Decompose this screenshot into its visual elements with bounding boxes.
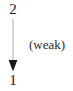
arrow-head xyxy=(9,60,18,72)
weak-edge-diagram: 2 (weak) 1 xyxy=(0,0,73,91)
node-label-1: 1 xyxy=(5,73,21,88)
edge-annotation-weak: (weak) xyxy=(29,37,65,52)
